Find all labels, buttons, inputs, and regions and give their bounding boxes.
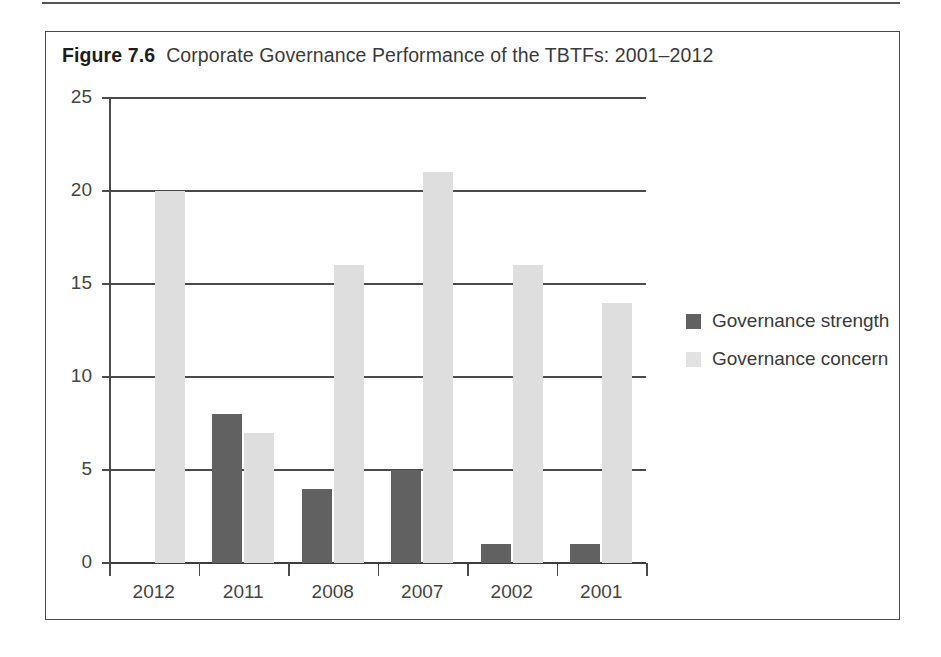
figure-container: Figure 7.6Corporate Governance Performan… <box>45 31 900 620</box>
x-axis-label-2002: 2002 <box>467 581 557 603</box>
x-axis-separator-end <box>646 563 648 576</box>
bar-2008-concern <box>334 265 364 563</box>
bar-2001-concern <box>602 303 632 563</box>
y-axis-label-0: 0 <box>48 551 92 573</box>
y-tick-10 <box>102 376 110 378</box>
bar-2007-concern <box>423 172 453 563</box>
x-axis-separator-3 <box>378 563 380 576</box>
bar-2002-concern <box>513 265 543 563</box>
x-axis-label-2007: 2007 <box>377 581 467 603</box>
bar-2008-strength <box>302 489 332 563</box>
legend-item-concern: Governance concern <box>686 340 889 378</box>
gridline-20 <box>109 190 646 192</box>
bar-2011-strength <box>212 414 242 563</box>
bar-2001-strength <box>570 544 600 563</box>
x-axis-label-2012: 2012 <box>109 581 199 603</box>
y-tick-15 <box>102 283 110 285</box>
x-axis-separator-0 <box>109 563 111 576</box>
bar-2011-concern <box>244 433 274 563</box>
page-top-rule <box>42 2 900 4</box>
bar-2012-concern <box>155 191 185 563</box>
bar-2007-strength <box>391 470 421 563</box>
y-axis-label-20: 20 <box>48 179 92 201</box>
y-axis-label-15: 15 <box>48 272 92 294</box>
legend-swatch-concern-icon <box>686 352 701 367</box>
y-axis-label-10: 10 <box>48 365 92 387</box>
y-tick-20 <box>102 190 110 192</box>
legend-swatch-strength-icon <box>686 314 701 329</box>
y-axis-line <box>109 98 111 563</box>
x-axis-separator-2 <box>288 563 290 576</box>
x-axis-separator-1 <box>199 563 201 576</box>
legend-label-concern: Governance concern <box>712 348 888 370</box>
gridline-10 <box>109 376 646 378</box>
y-tick-5 <box>102 469 110 471</box>
x-axis-label-2008: 2008 <box>288 581 378 603</box>
gridline-15 <box>109 283 646 285</box>
gridline-5 <box>109 469 646 471</box>
y-axis-label-25: 25 <box>48 86 92 108</box>
x-axis-label-2011: 2011 <box>198 581 288 603</box>
gridline-25 <box>109 97 646 99</box>
x-axis-label-2001: 2001 <box>556 581 646 603</box>
y-axis-label-5: 5 <box>48 458 92 480</box>
legend-label-strength: Governance strength <box>712 310 889 332</box>
bar-2002-strength <box>481 544 511 563</box>
x-axis-separator-5 <box>557 563 559 576</box>
y-tick-25 <box>102 97 110 99</box>
legend-item-strength: Governance strength <box>686 302 889 340</box>
chart-legend: Governance strengthGovernance concern <box>686 302 889 378</box>
x-axis-separator-4 <box>467 563 469 576</box>
